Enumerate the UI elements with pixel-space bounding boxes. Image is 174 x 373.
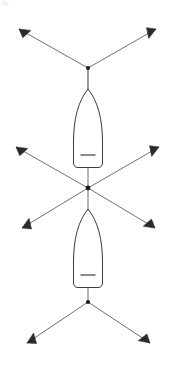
- lower-hull-outline: [74, 209, 103, 288]
- diagram-canvas: fig.: [0, 0, 174, 373]
- anchor-lower-right: [138, 332, 153, 347]
- anchor-mid-lower-right: [143, 217, 158, 232]
- anchor-upper-left: [16, 25, 31, 39]
- tether-mid-lower-right: [88, 188, 155, 228]
- anchor-lower-left: [24, 333, 39, 348]
- tether-mid-lower-left: [22, 188, 88, 228]
- lower-hull: [74, 209, 103, 288]
- upper-hull-outline: [74, 89, 103, 168]
- anchor-mid-lower-left: [20, 218, 35, 233]
- mooring-diagram: [0, 0, 174, 373]
- tether-lower-right: [88, 302, 150, 343]
- center-crossing-node: [86, 186, 91, 191]
- anchor-upper-right: [144, 24, 159, 38]
- anchor-mid-upper-right: [147, 142, 162, 156]
- lower-bridle-node: [86, 300, 90, 304]
- anchor-mid-upper-left: [13, 143, 28, 157]
- tether-upper-right: [88, 29, 156, 68]
- upper-bridle-node: [86, 66, 90, 70]
- upper-hull: [74, 89, 103, 168]
- tether-upper-left: [19, 29, 88, 68]
- tether-lower-left: [27, 302, 88, 343]
